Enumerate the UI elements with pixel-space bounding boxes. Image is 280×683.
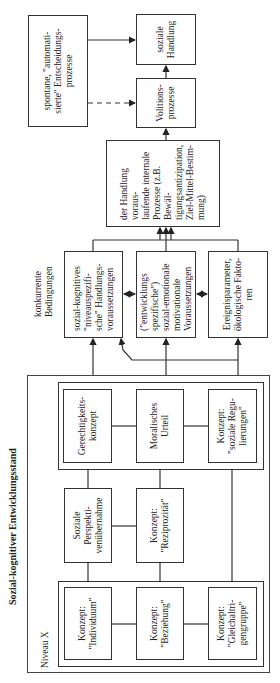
social-regulations-label: Konzept: "soziale Regu- lierungen" (216, 398, 249, 454)
reciprocity-label: Konzept: "Reziprozität" (149, 498, 171, 552)
condition-socioemotional-label: ("entwicklungs spezifische") sozial-emot… (139, 263, 194, 331)
social-regulations-box: Konzept: "soziale Regu- lierungen" (208, 389, 257, 463)
social-action-label: soziale Handlung (155, 21, 177, 58)
level-label: Niveau X (40, 631, 51, 668)
moral-judgment-box: Moralisches Urteil (136, 389, 184, 463)
condition-sociocognitive-box: sozial-kognitives "niveauspezifi- sche" … (64, 251, 123, 338)
spontaneous-decision-label: spontane, "automati- sierte" Entscheidun… (42, 28, 75, 113)
perspective-taking-label: Soziale Perspekti- venübernahme (72, 492, 105, 559)
diagram-canvas: soziale Handlung Volitions- prozesse spo… (0, 0, 280, 683)
condition-socioemotional-box: ("entwicklungs spezifische") sozial-emot… (136, 251, 196, 338)
internal-processes-box: der Handlung voraus- laufende internale … (106, 140, 220, 227)
relationship-concept-label: Konzept: "Beziehung" (149, 599, 171, 647)
perspective-taking-box: Soziale Perspekti- venübernahme (64, 488, 112, 563)
condition-event-parameters-label: Ereignisparameter, ökologische Fakto- re… (222, 258, 255, 331)
moral-judgment-label: Moralisches Urteil (149, 403, 171, 449)
condition-event-parameters-box: Ereignisparameter, ökologische Fakto- re… (208, 251, 268, 338)
relationship-concept-box: Konzept: "Beziehung" (136, 587, 184, 660)
reciprocity-box: Konzept: "Reziprozität" (136, 488, 184, 563)
condition-sociocognitive-label: sozial-kognitives "niveauspezifi- sche" … (72, 264, 116, 331)
peer-group-concept-box: Konzept: "Gleichaltri- gengruppe" (208, 587, 257, 660)
spontaneous-decision-box: spontane, "automati- sierte" Entscheidun… (28, 15, 88, 127)
justice-concept-box: Gerechtigkeits- konzept (63, 389, 112, 463)
volition-label: Volitions- prozesse (155, 84, 177, 121)
concurrent-conditions-label: konkurrente Bedingungen (33, 266, 55, 317)
justice-concept-label: Gerechtigkeits- konzept (77, 397, 99, 456)
peer-group-concept-label: Konzept: "Gleichaltri- gengruppe" (216, 600, 249, 648)
diagram-title: Sozial-kognitiver Entwicklungsstand (7, 448, 18, 605)
individual-concept-box: Konzept: "Individuum" (64, 587, 112, 660)
social-action-box: soziale Handlung (136, 14, 196, 65)
internal-processes-label: der Handlung voraus- laufende internale … (119, 144, 207, 220)
individual-concept-label: Konzept: "Individuum" (77, 597, 99, 649)
volition-box: Volitions- prozesse (136, 78, 196, 128)
